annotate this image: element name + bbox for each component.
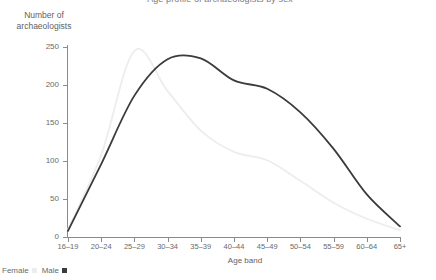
legend-item-female[interactable]: Female (2, 266, 37, 275)
y-tick-mark (63, 123, 67, 124)
y-tick-mark (63, 85, 67, 86)
y-tick-mark (63, 161, 67, 162)
chart-legend: Female Male (2, 266, 67, 275)
y-tick-mark (63, 237, 67, 238)
y-tick-label: 200 (33, 80, 59, 89)
series-lines (68, 47, 400, 237)
y-tick-label: 0 (33, 232, 59, 241)
y-tick-label: 250 (33, 42, 59, 51)
legend-label-female: Female (2, 266, 29, 275)
legend-label-male: Male (42, 266, 59, 275)
y-tick-mark (63, 47, 67, 48)
y-axis-title: Number of archaeologists (8, 10, 80, 32)
y-tick-label: 100 (33, 156, 59, 165)
y-tick-mark (63, 199, 67, 200)
legend-item-male[interactable]: Male (42, 266, 67, 275)
y-tick-label: 150 (33, 118, 59, 127)
chart-container: Age profile of archaeologists by sex Num… (0, 0, 436, 280)
series-line-male (68, 55, 400, 231)
plot-area (68, 47, 400, 237)
x-axis-title: Age band (190, 256, 300, 265)
legend-swatch-female-icon (32, 268, 37, 273)
series-line-female (68, 49, 400, 230)
y-tick-label: 50 (33, 194, 59, 203)
x-tick-label: 65+ (378, 242, 422, 251)
chart-title: Age profile of archaeologists by sex (100, 0, 340, 4)
legend-swatch-male-icon (62, 268, 67, 273)
